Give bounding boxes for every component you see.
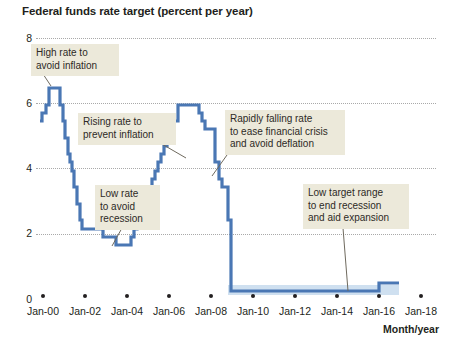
gridline-8 [36, 38, 436, 40]
annotation-low-rate: Low rate to avoid recession [95, 185, 160, 230]
x-tick-label-jan-00: Jan-00 [27, 305, 59, 317]
x-tick-dot-5 [251, 294, 255, 298]
plot-area [36, 38, 436, 300]
gridline-2 [36, 234, 436, 236]
x-tick-dot-3 [167, 294, 171, 298]
y-tick-label-2: 2 [6, 228, 32, 239]
y-tick-label-4: 4 [6, 163, 32, 174]
y-axis-labels: 8 6 4 2 0 [0, 38, 32, 300]
x-tick-label-jan-14: Jan-14 [321, 305, 353, 317]
x-axis-title: Month/year [383, 323, 439, 335]
gridline-4 [36, 168, 436, 170]
x-tick-label-jan-10: Jan-10 [237, 305, 269, 317]
x-tick-label-jan-06: Jan-06 [153, 305, 185, 317]
x-tick-dot-2 [125, 294, 129, 298]
x-tick-dot-6 [293, 294, 297, 298]
y-tick-label-6: 6 [6, 98, 32, 109]
y-tick-label-8: 8 [6, 33, 32, 44]
gridline-6 [36, 103, 436, 105]
chart-title: Federal funds rate target (percent per y… [22, 5, 253, 17]
x-tick-label-jan-04: Jan-04 [111, 305, 143, 317]
x-tick-label-jan-08: Jan-08 [195, 305, 227, 317]
x-tick-dot-1 [83, 294, 87, 298]
x-tick-dot-8 [377, 294, 381, 298]
x-tick-dot-7 [335, 294, 339, 298]
x-tick-label-jan-12: Jan-12 [279, 305, 311, 317]
chart-container: Federal funds rate target (percent per y… [0, 0, 451, 347]
x-tick-label-jan-02: Jan-02 [69, 305, 101, 317]
annotation-low-target-range: Low target range to end recession and ai… [303, 184, 409, 229]
x-tick-label-jan-16: Jan-16 [363, 305, 395, 317]
x-tick-dot-9 [419, 294, 423, 298]
x-tick-dot-4 [209, 294, 213, 298]
x-tick-dot-0 [41, 294, 45, 298]
annotation-falling-rate: Rapidly falling rate to ease financial c… [225, 110, 345, 155]
x-tick-label-jan-18: Jan-18 [405, 305, 437, 317]
x-axis-tick-dots [36, 294, 436, 304]
annotation-high-rate: High rate to avoid inflation [31, 44, 119, 76]
annotation-rising-rate: Rising rate to prevent inflation [78, 113, 176, 145]
y-tick-label-0: 0 [6, 294, 32, 305]
